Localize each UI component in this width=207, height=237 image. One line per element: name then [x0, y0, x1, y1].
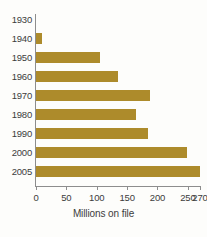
x-axis-title: Millions on file — [0, 208, 207, 219]
x-axis-tick-200 — [157, 186, 158, 190]
x-axis-tick-270 — [200, 186, 201, 190]
bar-2005 — [36, 166, 200, 177]
y-axis-label-2005: 2005 — [2, 166, 32, 177]
y-axis-label-1980: 1980 — [2, 109, 32, 120]
x-axis-tick-label-100: 100 — [89, 192, 104, 203]
bar-chart: 193019401950196019701980199020002005 Mil… — [0, 0, 207, 237]
bar-fill — [36, 166, 200, 177]
x-axis-tick-label-150: 150 — [119, 192, 134, 203]
x-axis-tick-0 — [36, 186, 37, 190]
bar-1980 — [36, 109, 136, 120]
bar-1970 — [36, 90, 150, 101]
bar-1960 — [36, 71, 118, 82]
bar-1950 — [36, 52, 100, 63]
x-axis-line — [35, 186, 200, 187]
plot-area — [36, 14, 200, 186]
x-axis-tick-label-200: 200 — [150, 192, 165, 203]
bar-fill — [36, 128, 148, 139]
bar-1940 — [36, 33, 42, 44]
bar-fill — [36, 90, 150, 101]
y-axis-label-1990: 1990 — [2, 128, 32, 139]
y-axis-label-1940: 1940 — [2, 33, 32, 44]
x-axis-tick-label-50: 50 — [61, 192, 71, 203]
y-axis-label-2000: 2000 — [2, 147, 32, 158]
x-axis-tick-100 — [97, 186, 98, 190]
bar-1990 — [36, 128, 148, 139]
y-axis-label-1950: 1950 — [2, 52, 32, 63]
bar-fill — [36, 109, 136, 120]
bar-fill — [36, 147, 187, 158]
x-axis-tick-label-0: 0 — [33, 192, 38, 203]
x-axis-tick-50 — [66, 186, 67, 190]
y-axis-label-1930: 1930 — [2, 14, 32, 25]
bar-fill — [36, 71, 118, 82]
y-axis-tick-labels: 193019401950196019701980199020002005 — [0, 14, 32, 186]
x-axis-tick-150 — [127, 186, 128, 190]
y-axis-label-1970: 1970 — [2, 90, 32, 101]
x-axis-tick-250 — [188, 186, 189, 190]
bar-fill — [36, 33, 42, 44]
x-axis-tick-label-270: 270 — [192, 192, 207, 203]
y-axis-label-1960: 1960 — [2, 71, 32, 82]
bar-fill — [36, 52, 100, 63]
bar-2000 — [36, 147, 187, 158]
